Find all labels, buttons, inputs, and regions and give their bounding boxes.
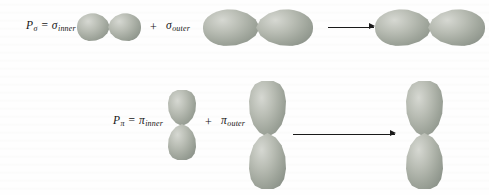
sigma-inner-orbital-left-lobe [77, 13, 110, 41]
sigma-equals: = [41, 19, 49, 31]
pi-reaction-arrow-shaft [293, 134, 395, 135]
sigma-inner-symbol: σ [52, 19, 58, 31]
sigma-result-orbital-right-lobe [428, 9, 485, 46]
sigma-outer-subscript: outer [172, 24, 190, 33]
pi-outer-orbital-bottom-lobe [249, 133, 286, 189]
pi-equals: = [128, 114, 136, 126]
sigma-outer-symbol: σ [166, 19, 172, 31]
pi-equation-label: Pπ = πinner [113, 114, 163, 128]
pi-plus-sign: + [205, 115, 212, 130]
pi-inner-orbital [168, 90, 196, 160]
pi-inner-orbital-top-lobe [168, 90, 196, 126]
sigma-inner-orbital [77, 13, 141, 41]
pi-inner-symbol: π [139, 114, 145, 126]
pi-inner-subscript: inner [145, 119, 163, 128]
sigma-outer-orbital [203, 9, 313, 46]
pi-outer-subscript: outer [227, 119, 245, 128]
sigma-inner-subscript: inner [58, 24, 76, 33]
pi-result-orbital [406, 81, 443, 189]
sigma-outer-label: σouter [166, 19, 190, 33]
sigma-outer-orbital-right-lobe [256, 9, 313, 46]
pi-reaction-arrow-head [390, 130, 396, 136]
pi-outer-orbital [249, 81, 286, 189]
pi-result-orbital-top-lobe [406, 81, 443, 137]
sigma-outer-orbital-left-lobe [203, 9, 260, 46]
pi-p-subscript: π [120, 119, 125, 128]
pi-inner-orbital-bottom-lobe [168, 124, 196, 160]
sigma-result-orbital-left-lobe [375, 9, 432, 46]
sigma-inner-orbital-right-lobe [108, 13, 141, 41]
pi-reaction-arrow [293, 129, 395, 139]
pi-outer-orbital-top-lobe [249, 81, 286, 137]
sigma-plus-sign: + [150, 20, 157, 35]
sigma-result-orbital [375, 9, 485, 46]
pi-result-orbital-bottom-lobe [406, 133, 443, 189]
sigma-reaction-arrow [328, 22, 374, 32]
pi-outer-label: πouter [221, 114, 245, 128]
sigma-reaction-arrow-shaft [328, 27, 374, 28]
orbital-combination-figure: Pσ = σinner + σouter Pπ = πinner + [0, 0, 489, 195]
sigma-equation-label: Pσ = σinner [26, 19, 76, 33]
sigma-p-subscript: σ [33, 24, 37, 33]
